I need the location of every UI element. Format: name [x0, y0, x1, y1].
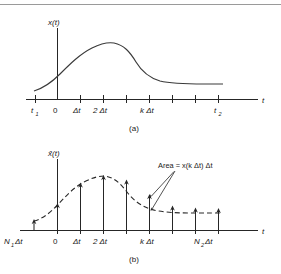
panel-b-tick-label-n2-tail: Δt	[204, 237, 213, 246]
panel-a-caption: (a)	[129, 124, 139, 133]
panel-b-tick-labels: N 1 Δt 0 Δt 2 Δt k Δt N 2 Δt	[4, 237, 213, 248]
panel-b-tick-label-n2-sub: 2	[200, 242, 204, 248]
panel-a-tick-label-t2: t	[214, 106, 217, 115]
figure-container: x(t) t t 1 0 Δt 2 Δt k Δt t 2 (a)	[0, 0, 281, 274]
panel-a-signal-curve	[34, 43, 223, 91]
panel-b-tick-label-n1: N	[4, 237, 10, 246]
panel-b-area-annotation-leader	[150, 171, 175, 211]
panel-b-caption: (b)	[129, 255, 139, 264]
panel-a-tick-label-t1: t	[31, 106, 34, 115]
panel-a-tick-label-zero: 0	[53, 106, 58, 115]
panel-b-area-annotation-text: Area = x(k Δt) Δt	[158, 161, 212, 170]
panel-a-plot: x(t) t t 1 0 Δt 2 Δt k Δt t 2 (a)	[0, 0, 281, 137]
panel-a-tick-label-t1-sub: 1	[36, 111, 39, 117]
panel-a-tick-label-t2-sub: 2	[218, 111, 222, 117]
panel-b-tick-label-zero: 0	[53, 237, 58, 246]
panel-a-tick-label-kdt: k Δt	[140, 106, 155, 115]
panel-b-tick-label-n1-sub: 1	[11, 242, 14, 248]
panel-a-tick-label-dt: Δt	[72, 106, 81, 115]
panel-b-tick-label-n2: N	[194, 237, 200, 246]
panel-b-tick-label-2dt: 2 Δt	[92, 237, 108, 246]
panel-a-tick-labels: t 1 0 Δt 2 Δt k Δt t 2	[31, 106, 222, 117]
panel-b-tick-label-kdt: k Δt	[140, 237, 155, 246]
panel-b-tick-label-dt: Δt	[72, 237, 81, 246]
panel-b-x-axis-label: t	[262, 227, 265, 236]
panel-a-y-axis-label: x(t)	[47, 18, 60, 27]
panel-b-plot: Area = x(k Δt) Δt x̂(t) t N 1 Δt 0 Δt 2 …	[0, 137, 281, 274]
panel-b-y-axis-label: x̂(t)	[47, 149, 60, 158]
panel-b-tick-label-n1-tail: Δt	[14, 237, 23, 246]
panel-a-x-axis-label: t	[262, 96, 265, 105]
panel-a-tick-label-2dt: 2 Δt	[92, 106, 108, 115]
